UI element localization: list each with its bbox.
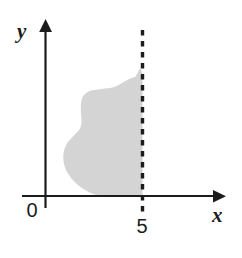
origin-label: 0 <box>26 199 37 221</box>
x-tick-label-5: 5 <box>136 215 147 237</box>
x-axis-label: x <box>211 203 223 227</box>
figure-root: y x 0 5 <box>0 0 242 258</box>
plot-svg: y x 0 5 <box>0 0 242 258</box>
